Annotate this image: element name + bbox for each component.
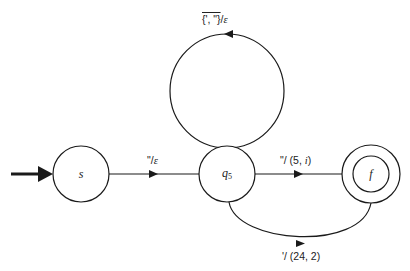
label-q5-to-f-top-output: (5, — [290, 154, 305, 166]
label-s-to-q5-output: ε — [154, 155, 158, 166]
state-f-name: f — [369, 167, 372, 181]
state-s-label: s — [66, 168, 96, 180]
label-q5-to-f-top-output-end: ) — [308, 154, 312, 166]
state-q5-label: q5 — [212, 167, 242, 181]
label-q5-to-f-bottom-output: (24, 2) — [290, 250, 320, 262]
label-s-to-q5: "/ε — [147, 155, 158, 167]
state-diagram — [0, 0, 410, 271]
edge-s-to-q5 — [109, 170, 199, 178]
label-self-loop-output: ε — [224, 14, 228, 25]
state-f-label: f — [356, 168, 386, 180]
edge-q5-to-f-top — [255, 170, 342, 178]
label-self-loop-input: {', "} — [202, 13, 221, 25]
edge-q5-self-loop — [170, 30, 284, 148]
label-q5-to-f-bottom: '/ (24, 2) — [282, 251, 320, 262]
state-s-name: s — [79, 167, 84, 181]
edge-q5-to-f-bottom — [229, 202, 371, 247]
label-q5-to-f-top: "/ (5, i) — [280, 155, 311, 167]
state-q5-subscript: 5 — [228, 172, 232, 181]
label-self-loop: {', "}/ε — [202, 14, 228, 26]
start-arrow — [11, 166, 53, 182]
